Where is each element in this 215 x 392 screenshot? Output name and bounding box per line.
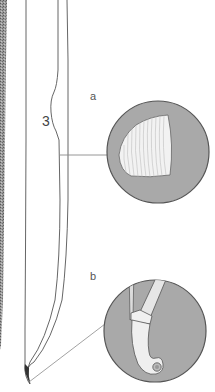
part-number-label: 3 — [42, 114, 50, 128]
texture-strip — [0, 0, 7, 350]
inset-b-label: b — [90, 271, 96, 282]
blade-illustration — [0, 0, 215, 392]
blade-outline — [25, 0, 68, 384]
inset-a-cross-section — [107, 101, 209, 203]
inset-a-label: a — [90, 91, 96, 102]
inset-b-tip-detail — [104, 265, 206, 382]
